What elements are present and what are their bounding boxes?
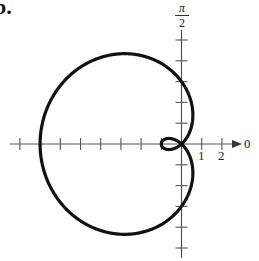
axes <box>10 30 242 258</box>
arrow-right-icon <box>232 140 242 148</box>
polar-plot <box>0 0 259 261</box>
